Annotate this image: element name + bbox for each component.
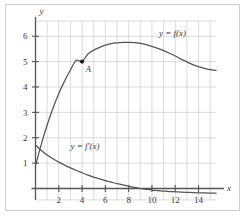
x-axis-label: x (226, 183, 231, 193)
axis-ticks (32, 36, 199, 192)
data-point-a-label: A (85, 64, 92, 74)
x-tick-label: 2 (57, 195, 62, 205)
y-tick-label: 4 (23, 82, 28, 92)
y-tick-label: 5 (23, 57, 28, 67)
data-point-a (80, 60, 84, 64)
curves (36, 42, 217, 193)
x-tick-label: 14 (194, 195, 204, 205)
curve-f (36, 42, 217, 165)
y-tick-label: 1 (23, 158, 28, 168)
axes (32, 17, 225, 200)
gridlines (36, 21, 217, 200)
plot-canvas: 2468101214123456y = f(x)y = f′(x)Ayx (0, 0, 245, 220)
y-axis-label: y (39, 6, 44, 16)
y-tick-label: 2 (23, 133, 28, 143)
data-points (80, 60, 84, 64)
x-tick-label: 6 (103, 195, 108, 205)
figure-root: 2468101214123456y = f(x)y = f′(x)Ayx (0, 0, 245, 220)
x-tick-label: 8 (126, 195, 131, 205)
x-tick-label: 10 (147, 195, 157, 205)
curve-f-prime (36, 145, 217, 193)
curve-f-label: y = f(x) (158, 28, 186, 38)
y-tick-label: 6 (23, 31, 28, 41)
x-tick-label: 12 (171, 195, 180, 205)
x-tick-label: 4 (80, 195, 85, 205)
y-tick-label: 3 (23, 108, 28, 118)
curve-f-prime-label: y = f′(x) (69, 141, 99, 151)
